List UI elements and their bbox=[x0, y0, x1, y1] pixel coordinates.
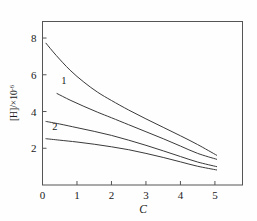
x-tick-label: 4 bbox=[178, 189, 184, 201]
y-tick-label: 4 bbox=[31, 106, 37, 118]
chart-figure: 012345 2468 12 C [H]/×10-6 bbox=[0, 0, 257, 221]
x-axis-title: C bbox=[139, 203, 147, 215]
x-tick-label: 3 bbox=[143, 189, 149, 201]
curve-label-2: 2 bbox=[52, 121, 57, 132]
x-tick-label: 5 bbox=[212, 189, 218, 201]
x-tick-label: 2 bbox=[109, 189, 115, 201]
y-tick-label: 2 bbox=[31, 142, 37, 154]
y-tick-label: 6 bbox=[31, 69, 37, 81]
x-tick-label: 1 bbox=[74, 189, 80, 201]
plot-svg: 012345 2468 12 C [H]/×10-6 bbox=[0, 0, 257, 221]
y-tick-label: 8 bbox=[31, 32, 37, 44]
x-tick-label: 0 bbox=[40, 189, 46, 201]
curve-label-1: 1 bbox=[61, 75, 66, 86]
